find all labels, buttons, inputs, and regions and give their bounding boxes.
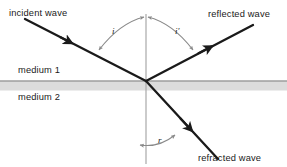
interface-band	[0, 82, 287, 91]
diagram-canvas: i i′ r incident wave reflected wave refr…	[0, 0, 287, 167]
angle-arc-incidence	[99, 17, 144, 50]
refraction-diagram: i i′ r incident wave reflected wave refr…	[0, 0, 287, 167]
label-incident-wave: incident wave	[9, 8, 67, 18]
label-medium-2: medium 2	[18, 92, 60, 102]
angle-label-incidence: i	[112, 26, 115, 36]
angle-arc-reflection-path	[148, 17, 193, 50]
incident-ray-arrowhead	[60, 37, 72, 43]
angle-arc-incidence-path	[99, 17, 144, 50]
reflected-ray	[146, 25, 253, 81]
reflected-ray-arrowhead	[198, 46, 212, 53]
angle-label-refraction: r	[158, 135, 162, 145]
refracted-ray-arrowhead	[180, 118, 192, 131]
refracted-ray	[146, 81, 218, 159]
angle-arc-reflection	[148, 17, 193, 50]
medium-interface	[0, 81, 287, 91]
label-medium-1: medium 1	[18, 65, 60, 75]
label-refracted-wave: refracted wave	[198, 153, 261, 163]
label-reflected-wave: reflected wave	[208, 9, 270, 19]
